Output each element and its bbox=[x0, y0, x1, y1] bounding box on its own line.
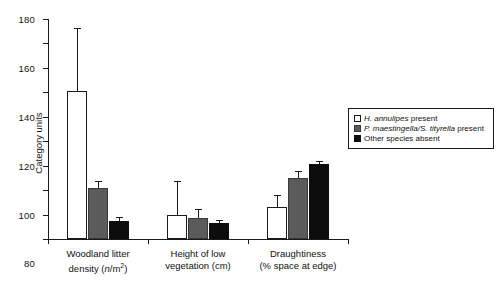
legend-item[interactable]: Other species absent bbox=[354, 134, 487, 143]
y-axis-tick-label: 140 bbox=[19, 111, 35, 122]
error-bar bbox=[77, 29, 78, 91]
y-axis-tick-label: 80 bbox=[24, 258, 35, 269]
y-axis-tick-label: 160 bbox=[19, 62, 35, 73]
error-bar bbox=[319, 162, 320, 164]
x-axis-category-label: Woodland litterdensity (n/m2) bbox=[48, 248, 148, 274]
x-axis-tick bbox=[48, 239, 49, 244]
x-axis-tick bbox=[248, 239, 249, 244]
x-axis-category-label: Draughtiness(% space at edge) bbox=[248, 248, 348, 271]
bar[interactable] bbox=[109, 221, 129, 239]
y-axis-tick-label: 120 bbox=[19, 160, 35, 171]
error-bar-cap bbox=[195, 209, 202, 210]
y-axis-tick-label: 100 bbox=[19, 209, 35, 220]
error-bar bbox=[198, 210, 199, 219]
error-bar-cap bbox=[95, 181, 102, 182]
x-axis-category-label: Height of lowvegetation (cm) bbox=[148, 248, 248, 271]
error-bar-cap bbox=[274, 195, 281, 196]
bar[interactable] bbox=[209, 223, 229, 239]
error-bar bbox=[298, 172, 299, 178]
chart-figure: Category units 020406080100120140160180W… bbox=[0, 0, 498, 285]
legend-item[interactable]: H. annulipes present bbox=[354, 114, 487, 123]
error-bar bbox=[219, 221, 220, 223]
legend-label: H. annulipes present bbox=[364, 114, 437, 123]
bar[interactable] bbox=[67, 91, 87, 239]
plot-area: 020406080100120140160180Woodland litterd… bbox=[48, 19, 348, 239]
legend-label: Other species absent bbox=[364, 134, 440, 143]
bar[interactable] bbox=[167, 215, 187, 239]
bar[interactable] bbox=[309, 164, 329, 239]
legend-swatch-icon bbox=[354, 115, 361, 122]
error-bar bbox=[119, 218, 120, 220]
legend-item[interactable]: P. maestingella/S. tityrella present bbox=[354, 124, 487, 133]
legend-label: P. maestingella/S. tityrella present bbox=[364, 124, 484, 133]
error-bar-cap bbox=[316, 161, 323, 162]
error-bar-cap bbox=[74, 28, 81, 29]
x-axis-line bbox=[48, 239, 349, 240]
chart-legend: H. annulipes presentP. maestingella/S. t… bbox=[348, 108, 494, 149]
error-bar bbox=[98, 182, 99, 188]
x-axis-tick bbox=[348, 239, 349, 244]
bar[interactable] bbox=[267, 207, 287, 239]
bar-group bbox=[248, 19, 348, 239]
error-bar bbox=[277, 196, 278, 207]
legend-swatch-icon bbox=[354, 135, 361, 142]
x-axis-tick bbox=[148, 239, 149, 244]
error-bar-cap bbox=[216, 220, 223, 221]
bar-group bbox=[48, 19, 148, 239]
error-bar-cap bbox=[174, 181, 181, 182]
bar[interactable] bbox=[88, 188, 108, 239]
legend-swatch-icon bbox=[354, 125, 361, 132]
bar-group bbox=[148, 19, 248, 239]
bar[interactable] bbox=[288, 178, 308, 239]
error-bar bbox=[177, 182, 178, 215]
bar[interactable] bbox=[188, 218, 208, 239]
y-axis-tick-label: 180 bbox=[19, 14, 35, 25]
error-bar-cap bbox=[116, 217, 123, 218]
error-bar-cap bbox=[295, 171, 302, 172]
